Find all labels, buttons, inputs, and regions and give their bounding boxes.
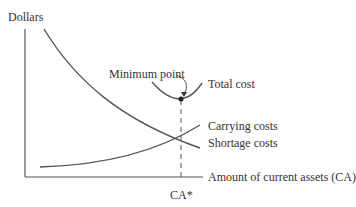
carrying-costs-curve — [40, 125, 200, 167]
ca-star-tick-label: CA* — [170, 188, 193, 202]
shortage-costs-label: Shortage costs — [208, 136, 278, 150]
carrying-costs-label: Carrying costs — [208, 119, 278, 133]
minimum-point-dot — [179, 97, 184, 102]
y-axis-label: Dollars — [8, 10, 43, 24]
x-axis-label: Amount of current assets (CA) — [208, 170, 356, 184]
total-cost-curve — [152, 82, 202, 99]
minimum-point-label: Minimum point — [109, 67, 185, 81]
arrowhead-icon — [181, 92, 187, 97]
total-cost-label: Total cost — [208, 77, 255, 91]
shortage-costs-curve — [44, 29, 200, 148]
